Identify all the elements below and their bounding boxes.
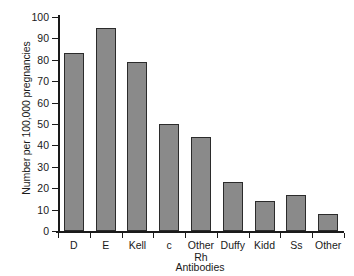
- y-tick: [52, 188, 58, 189]
- y-tick: [52, 124, 58, 125]
- bar: [191, 137, 211, 231]
- y-tick-label: 50: [21, 119, 49, 129]
- y-tick: [52, 81, 58, 82]
- y-tick: [52, 17, 58, 18]
- x-tick: [312, 233, 313, 238]
- x-tick-label-line: Other: [315, 239, 341, 251]
- x-tick: [153, 233, 154, 238]
- y-tick: [52, 210, 58, 211]
- y-tick: [52, 145, 58, 146]
- y-tick: [52, 231, 58, 232]
- y-tick-label: 0: [21, 226, 49, 236]
- y-tick-label: 60: [21, 98, 49, 108]
- x-tick: [344, 233, 345, 238]
- y-tick: [52, 103, 58, 104]
- x-axis-line: [56, 231, 344, 233]
- bar: [96, 28, 116, 231]
- x-tick: [217, 233, 218, 238]
- y-tick-label: 100: [21, 12, 49, 22]
- y-tick-label: 40: [21, 140, 49, 150]
- x-tick: [249, 233, 250, 238]
- y-axis-line: [58, 15, 60, 233]
- bar: [318, 214, 338, 231]
- x-tick: [185, 233, 186, 238]
- bar: [64, 53, 84, 231]
- y-tick: [52, 167, 58, 168]
- x-tick: [122, 233, 123, 238]
- bar-chart: Number per 100,000 pregnancies 010203040…: [0, 0, 354, 276]
- bar: [159, 124, 179, 231]
- y-tick-label: 30: [21, 162, 49, 172]
- bar: [255, 201, 275, 231]
- bar: [127, 62, 147, 231]
- x-tick-label: Other: [298, 240, 354, 252]
- y-tick-label: 90: [21, 33, 49, 43]
- bar: [286, 195, 306, 231]
- x-tick: [58, 233, 59, 238]
- y-tick-label: 20: [21, 183, 49, 193]
- bar: [223, 182, 243, 231]
- y-tick: [52, 60, 58, 61]
- y-tick-label: 10: [21, 205, 49, 215]
- y-tick-label: 80: [21, 55, 49, 65]
- x-tick: [90, 233, 91, 238]
- y-tick: [52, 38, 58, 39]
- y-tick-label: 70: [21, 76, 49, 86]
- x-tick: [280, 233, 281, 238]
- x-axis-title: Antibodies: [58, 261, 342, 273]
